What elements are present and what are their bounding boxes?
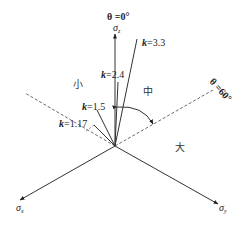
sigma-x-axis	[20, 146, 115, 200]
k-3.3-line	[115, 39, 137, 146]
sigma-z-label: σz	[113, 22, 121, 34]
k-3.3-label: k=3.3	[142, 37, 165, 48]
theta-60-label: θ =60°	[208, 76, 235, 104]
region-medium-label: 中	[143, 85, 153, 97]
stress-space-diagram: θ =0° σz k=3.3 k=2.4 k=1.5 k=1.17 小 中 大 …	[0, 0, 247, 225]
k-2.4-label: k=2.4	[101, 69, 124, 80]
region-large-label: 大	[175, 141, 185, 153]
k-1.17-label: k=1.17	[59, 118, 87, 129]
k-1.5-label: k=1.5	[82, 101, 105, 112]
region-small-label: 小	[73, 79, 83, 90]
theta-0-label: θ =0°	[107, 11, 129, 22]
sigma-y-label: σy	[219, 202, 227, 214]
sigma-y-axis	[115, 146, 218, 204]
k-1.17-dashed-extension	[86, 125, 94, 131]
theta-60-dashed-line	[115, 90, 213, 146]
sigma-x-label: σx	[16, 202, 24, 214]
